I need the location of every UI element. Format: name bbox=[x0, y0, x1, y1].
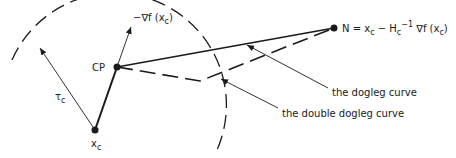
newton-label: N = xc − Hc−1 ∇f (xc) bbox=[342, 20, 448, 37]
dogleg-diagram: CP xc τc −∇f (xc) N = xc − Hc−1 ∇f (xc) … bbox=[0, 0, 456, 158]
steepest-descent-leg bbox=[95, 67, 117, 130]
double-dogleg-label: the double dogleg curve bbox=[282, 108, 404, 119]
cp-label: CP bbox=[92, 62, 105, 73]
double-dogleg-curve bbox=[117, 28, 334, 81]
radius-arrow bbox=[40, 48, 95, 130]
dogleg-label: the dogleg curve bbox=[332, 87, 417, 98]
xc-label: xc bbox=[91, 138, 101, 152]
gradient-label: −∇f (xc) bbox=[133, 12, 173, 26]
dogleg-pointer-arrow bbox=[247, 45, 328, 88]
gradient-arrow bbox=[117, 27, 131, 67]
double-dogleg-pointer-arrow bbox=[221, 79, 278, 108]
dogleg-curve bbox=[117, 28, 334, 67]
newton-point bbox=[331, 25, 338, 32]
cp-point bbox=[114, 64, 121, 71]
trust-region-boundary bbox=[12, 0, 226, 150]
radius-label: τc bbox=[55, 91, 65, 105]
xc-point bbox=[92, 127, 99, 134]
